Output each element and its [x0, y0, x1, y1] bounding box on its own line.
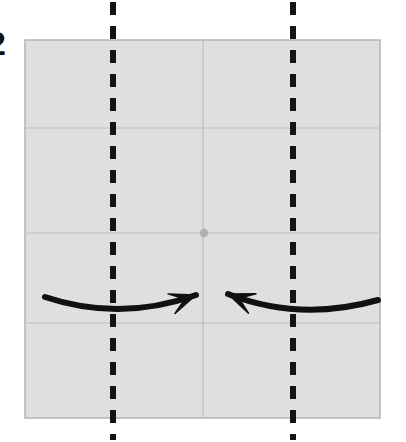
diagram-canvas — [0, 0, 406, 442]
center-point — [200, 229, 208, 237]
diagram-figure: 2 — [0, 0, 406, 442]
panel-label: 2 — [0, 26, 5, 60]
